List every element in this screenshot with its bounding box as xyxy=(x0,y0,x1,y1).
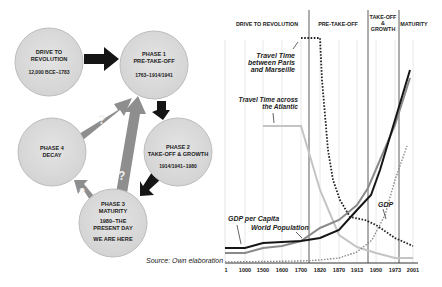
era-dividers xyxy=(309,10,399,263)
x-tick: 2001 xyxy=(407,267,419,273)
phase-title: TAKE-OFF & GROWTH xyxy=(148,151,209,157)
phase-title: REVOLUTION xyxy=(31,56,68,62)
phase-title: PHASE 1 xyxy=(142,51,166,57)
series-atlantic-travel xyxy=(263,126,413,258)
phase-4: PHASE 4 DECAY xyxy=(18,118,86,186)
x-tick: 1500 xyxy=(257,267,269,273)
svg-text:and Marseille: and Marseille xyxy=(251,66,295,73)
phase-title: DECAY xyxy=(42,152,61,158)
phase-title: PRE-TAKE-OFF xyxy=(133,58,175,64)
svg-text:GDP: GDP xyxy=(378,201,394,208)
phase-cycle-diagram: ? ? ? DRIVE TO REVOLUTION 12,000 BCE–178… xyxy=(15,28,212,257)
phase-title: DRIVE TO xyxy=(36,49,63,55)
we-are-here-label: WE ARE HERE xyxy=(93,236,133,242)
phase-1: PHASE 1 PRE-TAKE-OFF 1763–1914/1941 xyxy=(120,31,188,99)
phase-title: PHASE 3 xyxy=(101,201,125,207)
era-label: MATURITY xyxy=(400,21,428,27)
annotation-world-population: World Population xyxy=(251,224,309,238)
source-note: Source: Own elaboration xyxy=(146,257,223,264)
x-tick: 1000 xyxy=(239,267,251,273)
svg-text:GDP per Capita: GDP per Capita xyxy=(228,215,279,223)
phase-period: 1914/1941–1980 xyxy=(159,163,197,169)
question-mark: ? xyxy=(98,113,105,127)
era-label: DRIVE TO REVOLUTION xyxy=(236,21,298,27)
x-tick: 1950 xyxy=(370,267,382,273)
question-mark: ? xyxy=(118,169,125,183)
phase-period: 1980–THE xyxy=(100,218,127,224)
era-label: GROWTH xyxy=(371,26,396,32)
phase-period: 12,000 BCE–1783 xyxy=(28,69,69,75)
svg-text:the Atlantic: the Atlantic xyxy=(262,103,298,110)
phase-title: PHASE 4 xyxy=(40,145,65,151)
x-tick: 1700 xyxy=(295,267,307,273)
x-tick-labels: 1 1000 1500 1600 1700 1820 1870 1913 195… xyxy=(224,267,419,273)
svg-text:between Paris: between Paris xyxy=(248,59,295,66)
figure: ? ? ? DRIVE TO REVOLUTION 12,000 BCE–178… xyxy=(0,0,442,287)
arrow-drive-to-phase1 xyxy=(84,47,119,71)
x-tick: 1870 xyxy=(333,267,345,273)
x-tick: 1 xyxy=(224,267,227,273)
history-line-chart: DRIVE TO REVOLUTION PRE-TAKE-OFF TAKE-OF… xyxy=(224,10,428,273)
phase-period: 1763–1914/1941 xyxy=(135,72,173,78)
era-label: PRE-TAKE-OFF xyxy=(318,21,358,27)
x-tick: 1820 xyxy=(314,267,326,273)
arrow-phase1-to-phase2 xyxy=(152,101,170,120)
phase-3: PHASE 3 MATURITY 1980–THE PRESENT DAY WE… xyxy=(79,189,147,257)
svg-text:Travel Time: Travel Time xyxy=(256,52,295,59)
question-mark: ? xyxy=(79,187,85,198)
svg-text:Travel Time across: Travel Time across xyxy=(238,96,298,103)
phase-2: PHASE 2 TAKE-OFF & GROWTH 1914/1941–1980 xyxy=(144,118,212,186)
phase-drive-to-revolution: DRIVE TO REVOLUTION 12,000 BCE–1783 xyxy=(15,28,83,96)
phase-title: PHASE 2 xyxy=(166,144,190,150)
annotation-gdp: GDP xyxy=(378,201,394,219)
svg-text:World Population: World Population xyxy=(251,224,309,232)
annotation-paris-marseille: Travel Time between Paris and Marseille xyxy=(248,42,298,73)
x-tick: 1913 xyxy=(351,267,363,273)
phase-period: PRESENT DAY xyxy=(93,225,133,231)
annotation-atlantic: Travel Time across the Atlantic xyxy=(238,96,298,123)
phase-title: MATURITY xyxy=(99,208,128,214)
x-tick: 1973 xyxy=(389,267,401,273)
x-tick: 1600 xyxy=(276,267,288,273)
